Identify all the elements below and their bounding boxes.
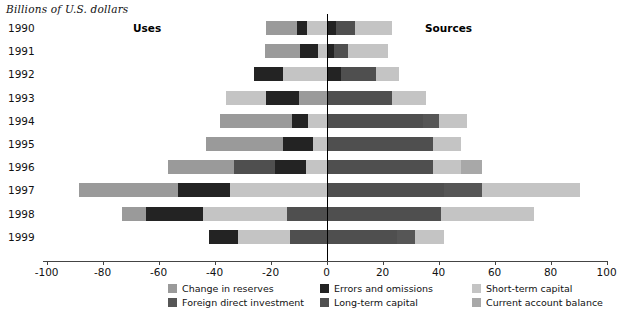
bar-segment-1990-short_term_capital [355, 21, 393, 35]
legend-label-current_account_balance: Current account balance [486, 297, 603, 308]
bar-row-1998 [0, 207, 632, 221]
bar-segment-1998-long_term_capital [327, 207, 442, 221]
bar-segment-1996-current_account_balance [461, 160, 482, 174]
x-tick--40 [215, 261, 216, 265]
bar-segment-1997-short_term_capital [230, 183, 327, 197]
bar-row-1995 [0, 137, 632, 151]
bar-segment-1991-errors_and_omissions [300, 44, 318, 58]
x-tick-label-20: 20 [376, 266, 389, 278]
x-tick-60 [495, 261, 496, 265]
bar-row-1997 [0, 183, 632, 197]
bar-segment-1990-long_term_capital [336, 21, 354, 35]
bar-segment-1994-long_term_capital [327, 114, 424, 128]
legend-item-long_term_capital[interactable]: Long-term capital [320, 297, 418, 308]
bar-segment-1997-short_term_capital [482, 183, 580, 197]
plot-area: 1990199119921993199419951996199719981999 [0, 0, 632, 262]
legend-swatch-errors_and_omissions [320, 284, 329, 293]
legend-label-long_term_capital: Long-term capital [334, 297, 418, 308]
bar-segment-1997-foreign_direct_investment [444, 183, 482, 197]
bar-segment-1991-long_term_capital [334, 44, 348, 58]
bar-row-1990 [0, 21, 632, 35]
x-tick-label-40: 40 [432, 266, 445, 278]
x-tick-label--60: -60 [150, 266, 167, 278]
bar-segment-1996-short_term_capital [433, 160, 461, 174]
bar-segment-1998-short_term_capital [441, 207, 533, 221]
bar-segment-1997-change_in_reserves [79, 183, 178, 197]
legend-swatch-long_term_capital [320, 298, 329, 307]
bar-segment-1991-short_term_capital [348, 44, 389, 58]
bar-segment-1993-errors_and_omissions [266, 91, 298, 105]
legend-item-change_in_reserves[interactable]: Change in reserves [168, 283, 274, 294]
bar-segment-1996-long_term_capital [234, 160, 275, 174]
bar-segment-1999-errors_and_omissions [209, 230, 238, 244]
bar-segment-1990-change_in_reserves [266, 21, 297, 35]
x-tick-label-80: 80 [544, 266, 557, 278]
bar-segment-1991-short_term_capital [318, 44, 326, 58]
chart-root: Billions of U.S. dollars Uses Sources 19… [0, 0, 632, 324]
legend-item-current_account_balance[interactable]: Current account balance [472, 297, 603, 308]
legend-swatch-change_in_reserves [168, 284, 177, 293]
x-tick-label-0: 0 [323, 266, 330, 278]
x-tick--20 [271, 261, 272, 265]
x-axis-line [43, 261, 607, 262]
bar-segment-1997-errors_and_omissions [178, 183, 230, 197]
bar-segment-1994-errors_and_omissions [292, 114, 309, 128]
bar-row-1999 [0, 230, 632, 244]
bar-segment-1990-short_term_capital [307, 21, 327, 35]
bar-segment-1999-foreign_direct_investment [397, 230, 415, 244]
x-tick-100 [607, 261, 608, 265]
bar-segment-1996-long_term_capital [327, 160, 433, 174]
x-tick--100 [47, 261, 48, 265]
legend-item-errors_and_omissions[interactable]: Errors and omissions [320, 283, 433, 294]
bar-segment-1999-long_term_capital [327, 230, 397, 244]
zero-axis-line [327, 14, 328, 262]
x-tick-label--20: -20 [262, 266, 279, 278]
bar-segment-1999-short_term_capital [415, 230, 444, 244]
bar-row-1991 [0, 44, 632, 58]
x-tick--80 [103, 261, 104, 265]
bar-segment-1993-short_term_capital [392, 91, 426, 105]
chart-legend: Change in reservesForeign direct investm… [0, 283, 632, 319]
bar-segment-1992-errors_and_omissions [254, 67, 283, 81]
legend-label-foreign_direct_investment: Foreign direct investment [182, 297, 304, 308]
legend-swatch-current_account_balance [472, 298, 481, 307]
bar-row-1996 [0, 160, 632, 174]
legend-swatch-short_term_capital [472, 284, 481, 293]
bar-segment-1992-long_term_capital [341, 67, 376, 81]
bar-segment-1995-long_term_capital [327, 137, 433, 151]
bar-segment-1995-errors_and_omissions [283, 137, 312, 151]
x-tick--60 [159, 261, 160, 265]
legend-swatch-foreign_direct_investment [168, 298, 177, 307]
bar-segment-1994-short_term_capital [308, 114, 326, 128]
legend-item-foreign_direct_investment[interactable]: Foreign direct investment [168, 297, 304, 308]
x-tick-80 [551, 261, 552, 265]
x-tick-label-60: 60 [488, 266, 501, 278]
bar-segment-1992-short_term_capital [283, 67, 326, 81]
bar-segment-1999-short_term_capital [238, 230, 290, 244]
bar-segment-1995-short_term_capital [313, 137, 327, 151]
bar-segment-1996-change_in_reserves [168, 160, 234, 174]
bar-segment-1992-short_term_capital [376, 67, 400, 81]
bar-segment-1996-errors_and_omissions [275, 160, 306, 174]
bar-segment-1993-long_term_capital [327, 91, 393, 105]
bar-segment-1991-change_in_reserves [265, 44, 300, 58]
bar-segment-1994-short_term_capital [439, 114, 467, 128]
legend-label-change_in_reserves: Change in reserves [182, 283, 274, 294]
bar-segment-1999-long_term_capital [290, 230, 326, 244]
bar-row-1992 [0, 67, 632, 81]
bar-segment-1996-short_term_capital [306, 160, 327, 174]
bar-row-1994 [0, 114, 632, 128]
bar-segment-1994-change_in_reserves [220, 114, 291, 128]
bar-row-1993 [0, 91, 632, 105]
bar-segment-1990-errors_and_omissions [297, 21, 307, 35]
x-tick-label--80: -80 [94, 266, 111, 278]
bar-segment-1994-foreign_direct_investment [423, 114, 438, 128]
x-tick-20 [383, 261, 384, 265]
legend-item-short_term_capital[interactable]: Short-term capital [472, 283, 572, 294]
x-tick-label--40: -40 [206, 266, 223, 278]
legend-label-errors_and_omissions: Errors and omissions [334, 283, 433, 294]
bar-segment-1993-short_term_capital [226, 91, 267, 105]
x-tick-label-100: 100 [597, 266, 617, 278]
bar-segment-1993-change_in_reserves [299, 91, 327, 105]
bar-segment-1990-errors_and_omissions [327, 21, 337, 35]
